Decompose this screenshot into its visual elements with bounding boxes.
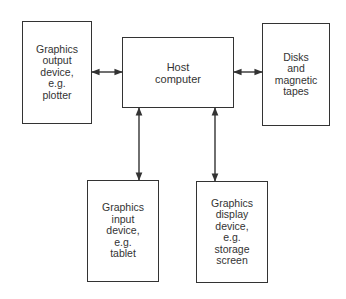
graphics-display-device-box: Graphics display device, e.g. storage sc… [196,181,268,283]
host-computer-label: Host computer [155,61,201,85]
graphics-input-device-label: Graphics input device, e.g. tablet [102,202,144,260]
graphics-display-device-label: Graphics display device, e.g. storage sc… [211,198,253,267]
host-computer-box: Host computer [122,37,234,108]
graphics-output-device-box: Graphics output device, e.g. plotter [22,21,92,124]
disks-and-tapes-label: Disks and magnetic tapes [275,52,318,98]
graphics-input-device-box: Graphics input device, e.g. tablet [87,180,159,282]
graphics-output-device-label: Graphics output device, e.g. plotter [36,44,78,102]
disks-and-tapes-box: Disks and magnetic tapes [262,23,330,126]
